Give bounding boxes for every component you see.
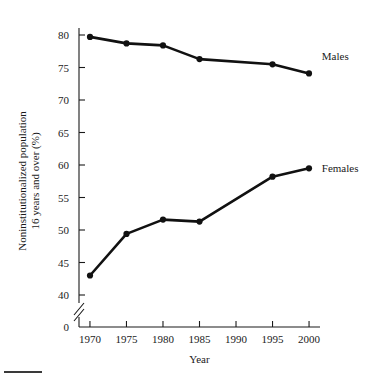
y-tick-label: 45 <box>58 257 70 269</box>
x-tick-label: 2000 <box>298 333 321 345</box>
y-tick-labels: 0404550556065707580 <box>58 29 70 333</box>
x-tick-label: 1990 <box>225 333 248 345</box>
data-point-males <box>269 61 275 67</box>
y-tick-label: 55 <box>58 192 70 204</box>
y-tick-label: 60 <box>58 159 70 171</box>
series-inline-labels: MalesFemales <box>322 50 359 174</box>
x-tick-label: 1980 <box>152 333 175 345</box>
x-tick-label: 1995 <box>262 333 285 345</box>
series-label-males: Males <box>322 50 349 62</box>
data-point-males <box>306 70 312 76</box>
data-point-females <box>306 165 312 171</box>
data-point-males <box>87 34 93 40</box>
footer-divider <box>4 371 42 373</box>
y-tick-label: 80 <box>58 29 70 41</box>
x-axis-group: 1970197519801985199019952000 <box>79 321 321 345</box>
line-chart-figure: 0404550556065707580 19701975198019851990… <box>0 0 384 379</box>
data-point-females <box>87 272 93 278</box>
series-label-females: Females <box>322 162 359 174</box>
y-tick-label: 70 <box>58 94 70 106</box>
data-series-group <box>87 34 312 279</box>
data-point-males <box>160 42 166 48</box>
y-tick-label: 40 <box>58 289 70 301</box>
y-axis-title-line2: 16 years and over (%) <box>29 132 42 229</box>
data-point-females <box>269 174 275 180</box>
series-line-males <box>90 37 309 74</box>
x-tick-label: 1970 <box>79 333 102 345</box>
data-point-females <box>160 217 166 223</box>
y-tick-label: 65 <box>58 127 70 139</box>
data-point-females <box>196 219 202 225</box>
y-axis-title-line1: Noninstitutionalized population <box>16 111 28 251</box>
y-tick-label: 50 <box>58 224 70 236</box>
data-point-males <box>196 56 202 62</box>
data-point-females <box>123 231 129 237</box>
x-axis-title: Year <box>189 353 210 365</box>
data-point-males <box>123 40 129 46</box>
x-tick-labels: 1970197519801985199019952000 <box>79 333 321 345</box>
x-tick-marks <box>90 321 309 327</box>
x-tick-label: 1975 <box>115 333 138 345</box>
x-tick-label: 1985 <box>189 333 212 345</box>
y-axis-group: 0404550556065707580 <box>58 28 85 333</box>
chart-canvas: 0404550556065707580 19701975198019851990… <box>0 0 384 379</box>
y-tick-marks <box>79 35 85 295</box>
y-tick-label: 0 <box>64 321 70 333</box>
y-tick-label: 75 <box>58 62 70 74</box>
